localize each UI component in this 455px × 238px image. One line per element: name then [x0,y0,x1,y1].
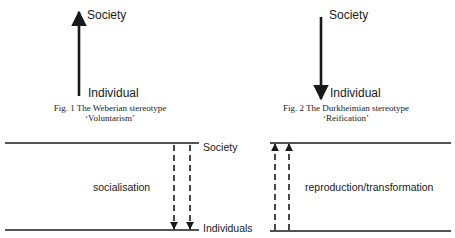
fig1-caption-line2: ‘Voluntarism’ [85,113,135,123]
fig2-durkheimian: Society Individual Fig. 2 The Durkheimia… [283,8,409,123]
fig3-transformational-model: socialisation Society Individuals reprod… [5,141,451,234]
fig1-society-label: Society [87,8,126,22]
reproduction-transformation-label: reproduction/transformation [305,181,434,193]
fig1-weberian: Society Individual Fig. 1 The Weberian s… [54,8,167,123]
fig3-individuals-label: Individuals [203,222,253,234]
fig3-society-label: Society [203,141,238,153]
fig2-caption-line2: ‘Reification’ [323,113,369,123]
fig1-caption-line1: Fig. 1 The Weberian stereotype [54,103,167,113]
fig2-society-label: Society [329,8,368,22]
fig2-individual-label: Individual [330,86,381,100]
diagram-canvas: Society Individual Fig. 1 The Weberian s… [0,0,455,238]
socialisation-label: socialisation [93,181,150,193]
fig1-individual-label: Individual [88,86,139,100]
fig2-caption-line1: Fig. 2 The Durkheimian stereotype [283,103,409,113]
